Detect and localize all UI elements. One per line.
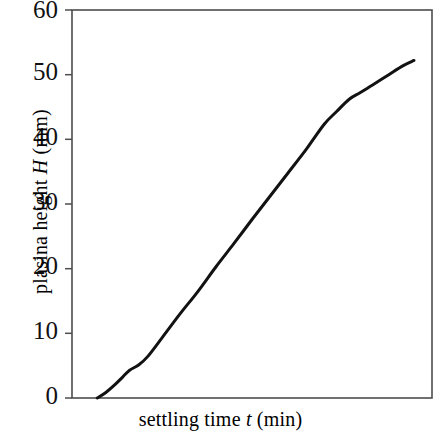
y-tick-label-0: 0 [46, 382, 59, 409]
x-axis-title-text: settling time t (min) [139, 408, 303, 430]
y-axis-title: plasina height H (mm) [29, 52, 52, 352]
chart-figure: 0 10 20 30 40 50 60 settling time t (min… [0, 0, 441, 442]
y-tick-label-60: 60 [33, 0, 58, 23]
chart-background [0, 0, 441, 442]
x-axis-title: settling time t (min) [0, 408, 441, 431]
x-axis-title-units: (min) [252, 408, 303, 430]
y-axis-title-units: (mm) [29, 109, 51, 159]
x-axis-title-pre: settling time [139, 408, 246, 430]
y-axis-variable-symbol: H [29, 160, 51, 175]
line-chart-plot-area: 0 10 20 30 40 50 60 [0, 0, 441, 442]
y-axis-title-text: plasina height H (mm) [29, 109, 51, 294]
y-axis-title-pre: plasina height [29, 174, 51, 294]
